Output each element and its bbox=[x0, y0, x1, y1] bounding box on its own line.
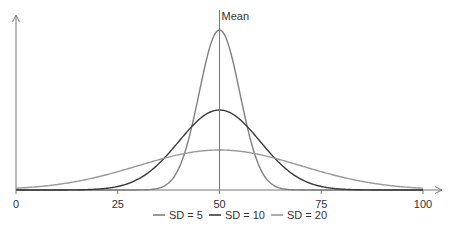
x-tick-label: 0 bbox=[13, 198, 19, 210]
legend-label: SD = 10 bbox=[225, 209, 265, 221]
legend-label: SD = 20 bbox=[287, 209, 327, 221]
x-tick-label: 25 bbox=[112, 198, 124, 210]
mean-label: Mean bbox=[222, 10, 250, 22]
x-tick-label: 50 bbox=[213, 198, 225, 210]
legend: SD = 5SD = 10SD = 20 bbox=[153, 209, 327, 221]
legend-label: SD = 5 bbox=[169, 209, 203, 221]
x-tick-label: 100 bbox=[414, 198, 432, 210]
normal-distribution-chart: 0255075100 Mean SD = 5SD = 10SD = 20 bbox=[0, 0, 457, 237]
